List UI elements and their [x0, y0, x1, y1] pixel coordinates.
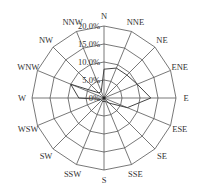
direction-label: ESE	[172, 124, 187, 134]
direction-label: NNE	[127, 17, 144, 27]
radial-tick-label: 5.0%	[82, 75, 100, 85]
direction-label: N	[101, 11, 107, 21]
grid-spoke	[104, 98, 155, 149]
direction-label: ENE	[171, 62, 188, 72]
direction-label: SSW	[64, 169, 81, 179]
direction-label: W	[18, 93, 26, 103]
wind-rose-chart: NNNENEENEEESESESSESSSWSWWSWWWNWNWNNW0%5.…	[0, 0, 204, 193]
direction-label: SW	[40, 151, 53, 161]
grid-spoke	[53, 47, 104, 98]
center-dot	[103, 97, 106, 100]
direction-label: NW	[39, 35, 53, 45]
direction-label: E	[183, 93, 188, 103]
radial-tick-label: 0%	[89, 93, 100, 103]
direction-label: SE	[157, 151, 167, 161]
radial-tick-label: 10.0%	[78, 57, 100, 67]
direction-label: WSW	[18, 124, 39, 134]
radial-tick-label: 15.0%	[78, 39, 100, 49]
grid-spoke	[53, 98, 104, 149]
direction-label: SSE	[128, 169, 143, 179]
radial-tick-label: 20.0%	[78, 21, 100, 31]
direction-label: WNW	[17, 62, 39, 72]
grid-spoke	[104, 47, 155, 98]
direction-label: NE	[156, 35, 167, 45]
direction-label: S	[102, 175, 107, 185]
data-polygon	[71, 68, 151, 108]
